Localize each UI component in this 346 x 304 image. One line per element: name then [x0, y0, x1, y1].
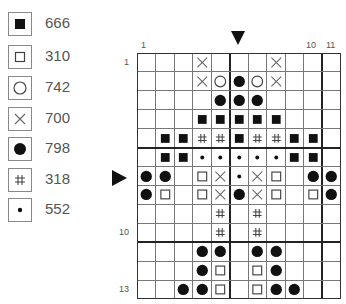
column-label: 1: [141, 40, 146, 50]
hash-icon: [8, 168, 32, 192]
dot-icon: [8, 198, 32, 222]
stitch-chart: [137, 53, 341, 299]
legend-label: 666: [45, 14, 70, 31]
legend-item-318: 318: [8, 168, 118, 194]
legend-item-798: 798: [8, 137, 118, 163]
legend-item-310: 310: [8, 45, 118, 71]
legend-label: 742: [45, 78, 70, 95]
chart-border: [137, 53, 341, 299]
row-label: 1: [124, 57, 129, 67]
legend-label: 798: [45, 139, 70, 156]
legend-label: 310: [45, 47, 70, 64]
column-label: 11: [326, 40, 335, 50]
legend-item-552: 552: [8, 198, 118, 224]
row-label: 13: [119, 284, 129, 294]
center-row-arrow-icon: [112, 170, 127, 186]
open-circle-icon: [8, 76, 32, 100]
legend-label: 552: [45, 200, 70, 217]
row-label: 10: [119, 227, 129, 237]
filled-square-icon: [8, 12, 32, 36]
cross-icon: [8, 107, 32, 131]
open-square-icon: [8, 45, 32, 69]
legend-label: 318: [45, 170, 70, 187]
legend-item-742: 742: [8, 76, 118, 102]
legend-label: 700: [45, 109, 70, 126]
legend-item-700: 700: [8, 107, 118, 133]
center-column-arrow-icon: [231, 31, 245, 45]
column-label: 10: [306, 40, 316, 50]
filled-circle-icon: [8, 137, 32, 161]
legend-item-666: 666: [8, 12, 118, 38]
